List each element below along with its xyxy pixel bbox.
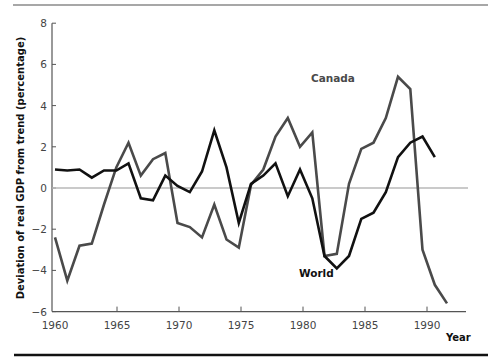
y-tick-label: 4: [40, 100, 47, 112]
series-labels: CanadaWorld: [299, 72, 355, 279]
canada-series-label: Canada: [311, 72, 355, 84]
x-axis-title: Year: [445, 332, 471, 343]
x-tick-label: 1990: [414, 319, 441, 331]
y-tick-label: 2: [40, 141, 47, 153]
y-tick-label: −6: [32, 306, 48, 318]
y-axis: −6−4−202468: [32, 17, 56, 317]
gdp-deviation-chart: −6−4−202468 1960196519701975198019851990…: [0, 0, 488, 361]
x-tick-label: 1985: [352, 319, 379, 331]
x-axis: 1960196519701975198019851990: [42, 307, 466, 331]
y-axis-title: Deviation of real GDP from trend (percen…: [15, 37, 26, 299]
x-tick-label: 1975: [228, 319, 255, 331]
x-tick-label: 1970: [166, 319, 193, 331]
x-tick-label: 1965: [104, 319, 131, 331]
canada-series-line: [55, 77, 447, 304]
y-tick-label: 6: [40, 58, 47, 70]
y-tick-label: −2: [32, 223, 47, 235]
y-tick-label: −4: [32, 264, 48, 276]
x-tick-label: 1980: [290, 319, 317, 331]
world-series-line: [55, 130, 435, 268]
y-tick-label: 0: [40, 182, 47, 194]
x-tick-label: 1960: [42, 319, 69, 331]
y-tick-label: 8: [40, 17, 47, 29]
series-lines: [55, 77, 447, 304]
world-series-label: World: [299, 267, 334, 279]
